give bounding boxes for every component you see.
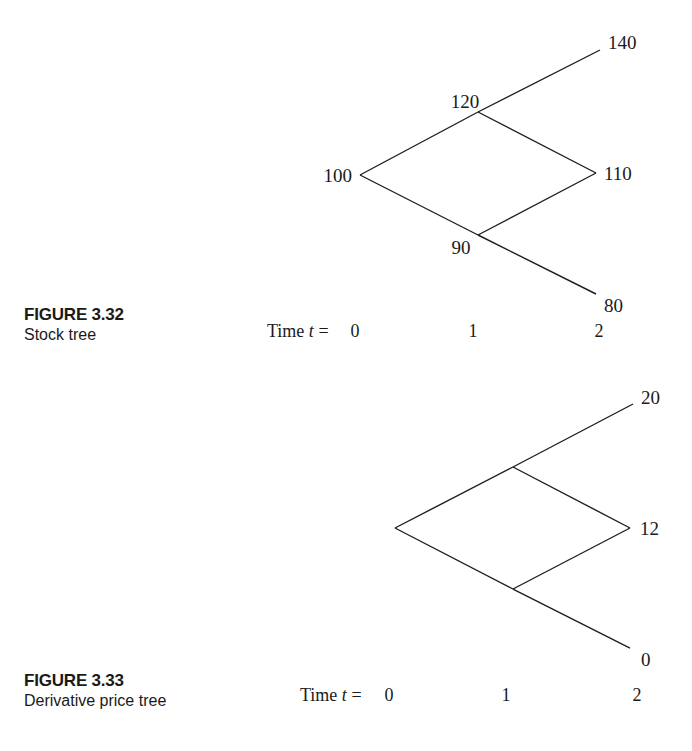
edge-up-upup: [478, 50, 600, 112]
time-tick-2: 2: [595, 321, 604, 341]
edge-root-down: [395, 528, 513, 589]
node-t0: 100: [324, 165, 353, 186]
edge-up-upup: [513, 404, 633, 467]
figure-label: FIGURE 3.33: [24, 671, 166, 691]
node-t2-mid: 110: [604, 163, 632, 184]
time-tick-1: 1: [502, 685, 511, 705]
time-tick-0: 0: [385, 685, 394, 705]
figure-label: FIGURE 3.32: [24, 305, 124, 325]
edge-down-downdown: [513, 589, 630, 648]
node-t2-downdown: 80: [604, 295, 623, 316]
node-t2-upup: 20: [641, 387, 660, 408]
node-t1-up: 120: [451, 91, 480, 112]
edge-root-up: [360, 112, 478, 175]
node-t1-down: 90: [452, 237, 471, 258]
binomial-trees-diagram: 100 120 90 140 110 80 Time t = 0 1 2 20 …: [0, 0, 692, 751]
edge-down-downdown: [478, 235, 596, 294]
derivative-price-tree: 20 12 0 Time t = 0 1 2: [300, 387, 660, 705]
node-t2-downdown: 0: [641, 649, 651, 670]
time-axis-label: Time t =: [267, 321, 329, 341]
time-tick-0: 0: [351, 321, 360, 341]
edge-up-mid: [478, 112, 596, 173]
figure-caption-3-32: FIGURE 3.32 Stock tree: [24, 305, 124, 344]
edge-root-up: [395, 467, 513, 528]
edge-down-mid: [513, 528, 630, 589]
node-t2-upup: 140: [608, 32, 637, 53]
edge-up-mid: [513, 467, 630, 528]
time-axis-label: Time t =: [300, 685, 362, 705]
figure-caption-text: Derivative price tree: [24, 692, 166, 710]
edge-down-mid: [478, 173, 596, 235]
edge-root-down: [360, 175, 478, 235]
node-t2-mid: 12: [640, 518, 659, 539]
time-tick-2: 2: [633, 685, 642, 705]
textbook-page: 100 120 90 140 110 80 Time t = 0 1 2 20 …: [0, 0, 692, 751]
stock-tree: 100 120 90 140 110 80 Time t = 0 1 2: [267, 32, 637, 341]
figure-caption-text: Stock tree: [24, 326, 124, 344]
figure-caption-3-33: FIGURE 3.33 Derivative price tree: [24, 671, 166, 710]
time-tick-1: 1: [469, 321, 478, 341]
